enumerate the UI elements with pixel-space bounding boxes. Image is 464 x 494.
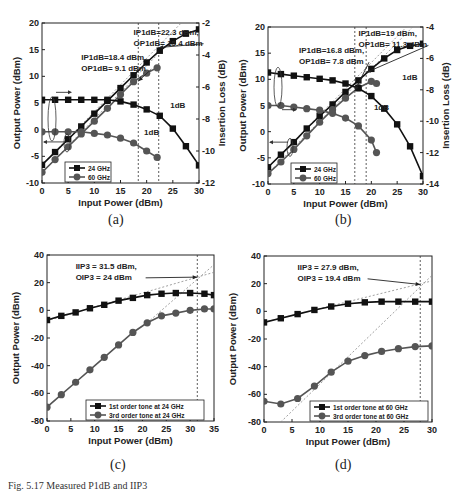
x-tick-label: 35 [209,424,219,434]
data-point-square [265,164,271,170]
x-axis-label: Input Power (dBm) [306,436,390,447]
data-point-circle [264,170,271,177]
y2-tick-label: -4 [202,50,210,60]
y-tick-label: 0 [260,127,265,137]
x-tick-label: 5 [291,187,296,197]
data-point-circle [115,341,122,348]
legend-label: 3rd order tone at 24 GHz [109,412,185,419]
data-point-circle [201,305,208,312]
data-point-square [291,72,297,78]
data-point-circle [294,395,301,402]
data-point-square [201,291,207,297]
annotation-text: 1dB [374,103,389,112]
y-axis-label: Output Power (dBm) [227,293,238,385]
legend-label: 24 GHz [88,165,111,172]
arrow-head [68,90,72,94]
data-point-circle [342,114,349,121]
series-group-ellipse [48,97,56,141]
data-point-circle [172,310,179,317]
x-tick-label: 20 [137,424,147,434]
y-tick-label: 0 [34,125,39,135]
data-point-square [65,97,71,103]
x-tick-label: 10 [89,186,99,196]
annotation-arrow [368,279,421,285]
data-point-square [412,298,418,304]
y-tick-label: -10 [252,179,265,189]
y-tick-label: 20 [29,18,39,28]
data-point-circle [78,128,85,135]
annotation-text: IP1dB=16.8 dBm, [299,46,364,55]
data-point-circle [101,354,108,361]
data-point-square [394,121,400,127]
data-point-square [187,290,193,296]
data-point-square [381,55,387,61]
data-point-square [44,317,50,323]
legend-marker-circle [319,413,326,420]
x-tick-label: 15 [114,424,124,434]
panel-label-b: (b) [335,212,351,228]
y2-tick-label: -6 [202,82,210,92]
y-tick-label: 10 [29,71,39,81]
data-point-circle [104,105,111,112]
data-point-square [429,298,435,304]
annotation-text: IIP3 = 27.9 dBm, [298,263,359,272]
data-point-circle [316,107,323,114]
data-point-square [65,136,71,142]
data-point-circle [154,154,161,161]
annotation-text: IP1dB=18.4 dBm, [81,53,146,62]
y-tick-label: -20 [31,333,44,343]
data-point-circle [144,319,151,326]
panel-label-d: (d) [335,457,351,473]
y2-tick-label: -12 [426,148,439,158]
x-tick-label: 20 [142,186,152,196]
x-tick-label: 5 [289,425,294,435]
data-point-circle [130,78,137,85]
data-point-square [395,298,401,304]
annotation-text: 1dB [170,101,185,110]
legend-marker-square [74,165,80,171]
y-tick-label: 5 [260,101,265,111]
data-point-square [52,149,58,155]
y2-axis-label: Insertion Loss (dB) [440,62,451,149]
y-axis-label: Output Power (dBm) [237,59,248,151]
data-point-square [157,113,163,119]
data-point-circle [303,132,310,139]
y-tick-label: 10 [255,74,265,84]
y-tick-label: -10 [26,178,39,188]
series-line [42,68,157,173]
data-point-circle [373,80,380,87]
data-point-circle [65,143,72,150]
annotation-text: IP1dB=22.3 dBm, [134,28,199,37]
chart-c: 05101520253035-80-60-40-2002040Input Pow… [10,250,219,446]
data-point-square [311,307,317,313]
y-tick-label: -80 [248,417,261,427]
data-point-circle [86,366,93,373]
data-point-circle [104,131,111,138]
data-point-circle [395,345,402,352]
data-point-square [342,89,348,95]
data-point-circle [355,122,362,129]
x-tick-label: 30 [185,424,195,434]
y-tick-label: -20 [248,334,261,344]
panel-label-a: (a) [108,212,124,228]
x-tick-label: 10 [315,187,325,197]
x-axis-label: Input Power (dBm) [88,435,172,446]
annotation-text: IP1dB=19 dBm, [358,29,416,38]
legend: 24 GHz60 GHz [65,162,111,182]
arrow-head [193,275,198,279]
data-point-square [407,143,413,149]
arrow-head [43,140,47,144]
chart-d: 051015202530-80-60-40-2002040Input Power… [227,251,437,447]
data-point-circle [43,404,50,411]
legend-marker-square [319,404,325,410]
data-point-circle [154,64,161,71]
data-point-square [183,143,189,149]
y-tick-label: 20 [255,22,265,32]
data-point-square [115,297,121,303]
data-point-square [144,292,150,298]
data-point-circle [303,105,310,112]
data-point-square [211,292,217,298]
annotation-text: OP1dB= 11.3 dBm [358,40,427,49]
data-point-square [104,97,110,103]
data-point-square [294,311,300,317]
